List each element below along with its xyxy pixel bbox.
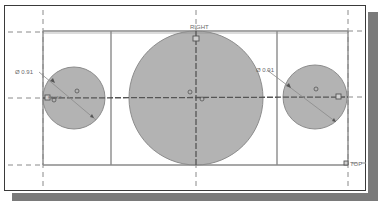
constraint-marker-bottom-right[interactable] <box>344 161 348 165</box>
right-plane-label: RIGHT <box>190 24 209 30</box>
right-diameter-dimension[interactable]: Ø 0.91 <box>256 67 275 73</box>
sketch-viewport[interactable]: RIGHT TOP FRONT Ø 0.91 Ø 0.91 <box>0 0 378 201</box>
top-plane-label: TOP <box>350 161 362 167</box>
sketch-canvas[interactable]: RIGHT TOP FRONT Ø 0.91 Ø 0.91 <box>0 0 378 201</box>
front-plane-label: FRONT <box>48 95 62 100</box>
constraint-marker-top[interactable] <box>193 36 199 41</box>
left-diameter-dimension[interactable]: Ø 0.91 <box>15 69 34 75</box>
constraint-marker-right[interactable] <box>336 94 341 99</box>
